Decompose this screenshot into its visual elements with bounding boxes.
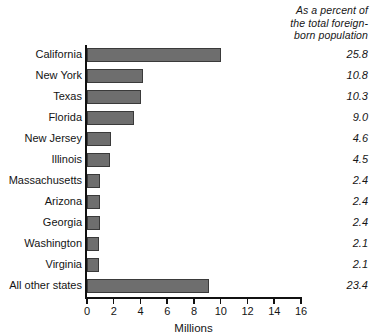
- percent-value: 2.1: [298, 257, 368, 272]
- chart-row: Massachusetts2.4: [0, 171, 374, 192]
- percent-value: 10.3: [298, 89, 368, 104]
- percent-column-header-line-3: born population: [238, 29, 368, 42]
- chart-row: Washington2.1: [0, 234, 374, 255]
- bar: [87, 237, 99, 251]
- bar: [87, 132, 111, 146]
- bar: [87, 279, 209, 293]
- chart-row: Illinois4.5: [0, 150, 374, 171]
- chart-row: Texas10.3: [0, 87, 374, 108]
- chart-row: Florida9.0: [0, 108, 374, 129]
- x-tick-label: 6: [147, 304, 187, 318]
- category-label: Georgia: [0, 215, 82, 230]
- percent-value: 2.1: [298, 236, 368, 251]
- percent-value: 2.4: [298, 215, 368, 230]
- percent-value: 25.8: [298, 47, 368, 62]
- x-tick-label: 10: [201, 304, 241, 318]
- bar: [87, 174, 100, 188]
- x-tick-label: 16: [281, 304, 321, 318]
- percent-column-header: As a percent of the total foreign- born …: [238, 4, 368, 42]
- chart-row: Georgia2.4: [0, 213, 374, 234]
- percent-column-header-line-2: the total foreign-: [238, 17, 368, 30]
- chart-row: Virginia2.1: [0, 255, 374, 276]
- category-label: Illinois: [0, 152, 82, 167]
- x-tick-label: 12: [228, 304, 268, 318]
- category-label: New Jersey: [0, 131, 82, 146]
- category-label: Arizona: [0, 194, 82, 209]
- chart-row: New York10.8: [0, 66, 374, 87]
- percent-value: 23.4: [298, 278, 368, 293]
- percent-value: 4.6: [298, 131, 368, 146]
- category-label: New York: [0, 68, 82, 83]
- percent-value: 9.0: [298, 110, 368, 125]
- chart-figure: As a percent of the total foreign- born …: [0, 0, 374, 336]
- bar: [87, 90, 141, 104]
- bar: [87, 48, 221, 62]
- percent-value: 2.4: [298, 173, 368, 188]
- category-label: California: [0, 47, 82, 62]
- bar: [87, 216, 100, 230]
- bar: [87, 153, 110, 167]
- x-axis-title: Millions: [85, 322, 302, 334]
- x-tick-label: 2: [94, 304, 134, 318]
- bar: [87, 111, 134, 125]
- x-tick-label: 8: [174, 304, 214, 318]
- bar: [87, 69, 143, 83]
- percent-value: 4.5: [298, 152, 368, 167]
- chart-row: Arizona2.4: [0, 192, 374, 213]
- plot-area: California25.8New York10.8Texas10.3Flori…: [0, 45, 374, 303]
- chart-row: New Jersey4.6: [0, 129, 374, 150]
- bar-rows: California25.8New York10.8Texas10.3Flori…: [0, 45, 374, 297]
- x-tick-label: 4: [121, 304, 161, 318]
- category-label: Massachusetts: [0, 173, 82, 188]
- category-label: Virginia: [0, 257, 82, 272]
- category-label: All other states: [0, 278, 82, 293]
- percent-value: 2.4: [298, 194, 368, 209]
- bar: [87, 195, 100, 209]
- category-label: Florida: [0, 110, 82, 125]
- x-tick-label: 14: [254, 304, 294, 318]
- category-label: Texas: [0, 89, 82, 104]
- percent-column-header-line-1: As a percent of: [238, 4, 368, 17]
- percent-value: 10.8: [298, 68, 368, 83]
- bar: [87, 258, 99, 272]
- category-label: Washington: [0, 236, 82, 251]
- chart-row: California25.8: [0, 45, 374, 66]
- chart-row: All other states23.4: [0, 276, 374, 297]
- x-tick-label: 0: [67, 304, 107, 318]
